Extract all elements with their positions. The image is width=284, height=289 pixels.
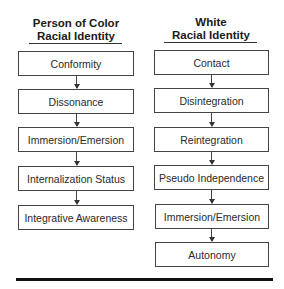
arrow-down-icon <box>76 191 77 204</box>
white-title: White Racial Identity <box>154 16 268 42</box>
arrow-down-icon <box>211 75 212 87</box>
poc-stage-conformity: Conformity <box>18 51 134 76</box>
arrow-down-icon <box>211 113 212 126</box>
stage-label: Immersion/Emersion <box>28 134 124 146</box>
arrow-down-icon <box>76 114 77 126</box>
poc-title: Person of Color Racial Identity <box>18 17 134 43</box>
stage-label: Reintegration <box>180 134 242 146</box>
stage-label: Internalization Status <box>27 173 125 185</box>
stage-label: Pseudo Independence <box>159 172 264 184</box>
poc-title-underline <box>29 43 122 44</box>
poc-stage-dissonance: Dissonance <box>18 89 134 114</box>
stage-label: Conformity <box>51 58 102 70</box>
stage-label: Immersion/Emersion <box>164 211 260 223</box>
white-title-line1: White <box>154 16 268 29</box>
stage-label: Contact <box>193 57 229 69</box>
stage-label: Integrative Awareness <box>24 212 127 224</box>
poc-title-line1: Person of Color <box>18 17 134 30</box>
white-stage-reintegration: Reintegration <box>154 127 269 152</box>
white-title-line2: Racial Identity <box>154 29 268 42</box>
arrow-down-icon <box>211 190 212 203</box>
white-stage-disintegration: Disintegration <box>154 88 269 113</box>
stage-label: Autonomy <box>188 249 235 261</box>
poc-title-line2: Racial Identity <box>18 30 134 43</box>
white-stage-autonomy: Autonomy <box>155 242 269 267</box>
white-stage-pseudo-independence: Pseudo Independence <box>154 165 269 190</box>
poc-stage-internalization: Internalization Status <box>18 166 134 191</box>
white-stage-immersion-emersion: Immersion/Emersion <box>155 204 269 229</box>
stage-label: Dissonance <box>49 96 104 108</box>
stage-label: Disintegration <box>179 95 243 107</box>
poc-stage-immersion-emersion: Immersion/Emersion <box>18 127 134 152</box>
arrow-down-icon <box>76 76 77 88</box>
arrow-down-icon <box>76 152 77 165</box>
white-stage-contact: Contact <box>154 50 269 75</box>
arrow-down-icon <box>211 229 212 241</box>
bottom-rule-divider <box>16 278 273 281</box>
poc-stage-integrative-awareness: Integrative Awareness <box>18 205 134 230</box>
arrow-down-icon <box>211 152 212 164</box>
white-title-underline <box>164 42 257 43</box>
